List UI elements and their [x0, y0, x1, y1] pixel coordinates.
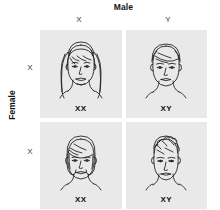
sex-determination-punnett-square: Male X Y Female X X: [0, 0, 220, 209]
column-header-y: Y: [126, 15, 210, 24]
female-axis-title: Female: [7, 75, 17, 135]
row-header-x-bottom: X: [22, 147, 38, 156]
row-header-x-top: X: [22, 63, 38, 72]
punnett-cell-xy-bottom-right: XY: [126, 122, 208, 210]
genotype-label: XX: [40, 195, 122, 204]
column-header-x: X: [37, 15, 121, 24]
punnett-cell-xx-top-left: XX: [40, 30, 122, 118]
genotype-label: XY: [126, 104, 208, 113]
girl-bob-hair-face-icon: [40, 124, 122, 194]
male-axis-title: Male: [40, 2, 207, 12]
girl-long-hair-face-icon: [40, 32, 122, 102]
punnett-cell-xy-top-right: XY: [126, 30, 208, 118]
genotype-label: XX: [40, 104, 122, 113]
punnett-cell-xx-bottom-left: XX: [40, 122, 122, 210]
boy-spiky-hair-face-icon: [126, 124, 208, 194]
punnett-grid: XX: [40, 30, 207, 209]
genotype-label: XY: [126, 195, 208, 204]
boy-short-hair-face-icon: [126, 32, 208, 102]
